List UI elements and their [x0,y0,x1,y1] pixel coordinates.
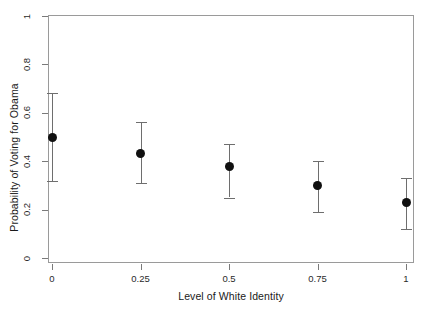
y-axis-tick-mark [42,113,48,114]
error-bar-cap-lower [47,181,58,182]
error-bar-cap-lower [224,198,235,199]
error-bar-cap-upper [401,178,412,179]
chart-figure: Probability of Voting for Obama 00.20.40… [0,0,423,315]
error-bar-cap-lower [136,183,147,184]
y-axis-title-container: Probability of Voting for Obama [4,0,24,275]
y-axis-tick-label: 0.2 [21,199,32,221]
y-axis-tick-mark [42,64,48,65]
y-axis-tick-mark [42,258,48,259]
error-bar-line [229,144,230,197]
error-bar-cap-upper [313,161,324,162]
x-axis-tick-mark [141,264,142,270]
y-axis-tick-label: 0.4 [21,150,32,172]
error-bar-cap-upper [136,122,147,123]
y-axis-tick-label: 0 [21,247,32,269]
data-point [225,162,234,171]
x-axis-tick-label: 0.5 [209,273,249,284]
error-bar-cap-upper [224,144,235,145]
y-axis-tick-mark [42,210,48,211]
x-axis-title: Level of White Identity [48,290,414,302]
x-axis-tick-label: 0.25 [121,273,161,284]
y-axis-tick-label: 0.6 [21,102,32,124]
data-point [313,181,322,190]
error-bar-cap-lower [313,212,324,213]
y-axis-tick-mark [42,161,48,162]
x-axis-tick-label: 1 [386,273,423,284]
x-axis-tick-mark [318,264,319,270]
y-axis-tick-label: 1 [21,5,32,27]
y-axis-tick-mark [42,16,48,17]
x-axis-tick-label: 0 [32,273,72,284]
y-axis-tick-label: 0.8 [21,53,32,75]
error-bar-cap-lower [401,229,412,230]
data-point [48,133,57,142]
error-bar-cap-upper [47,93,58,94]
x-axis-tick-mark [406,264,407,270]
x-axis-tick-mark [52,264,53,270]
x-axis-tick-mark [229,264,230,270]
data-point [402,198,411,207]
x-axis-tick-label: 0.75 [298,273,338,284]
plot-area [48,15,414,263]
